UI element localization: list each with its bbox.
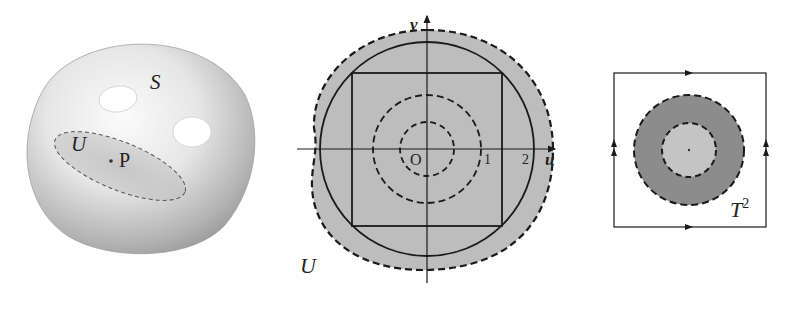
bottom-edge-arrow-icon: [685, 224, 693, 230]
label-u-left: U: [71, 132, 88, 156]
label-v: v: [410, 15, 418, 34]
label-s: S: [150, 70, 161, 94]
label-p: P: [119, 149, 130, 171]
top-edge-arrow-icon: [685, 70, 693, 76]
tick-2: 2: [522, 152, 529, 167]
label-origin: O: [410, 151, 422, 168]
region-u-blob: [312, 30, 553, 270]
torus-exponent: 2: [742, 196, 749, 211]
hole-right: [173, 117, 211, 147]
label-u: u: [545, 150, 554, 169]
uv-plane-figure: v u O 1 2 U: [297, 15, 555, 283]
label-u-region: U: [300, 253, 318, 278]
surface-figure: S U P: [27, 44, 255, 254]
torus-figure: T2: [611, 70, 769, 230]
label-torus: T2: [730, 196, 749, 222]
torus-center-dot: [688, 149, 690, 151]
figure-canvas: S U P v u O 1 2 U T2: [0, 0, 788, 309]
tick-1: 1: [484, 152, 491, 167]
point-p-dot: [109, 159, 113, 163]
